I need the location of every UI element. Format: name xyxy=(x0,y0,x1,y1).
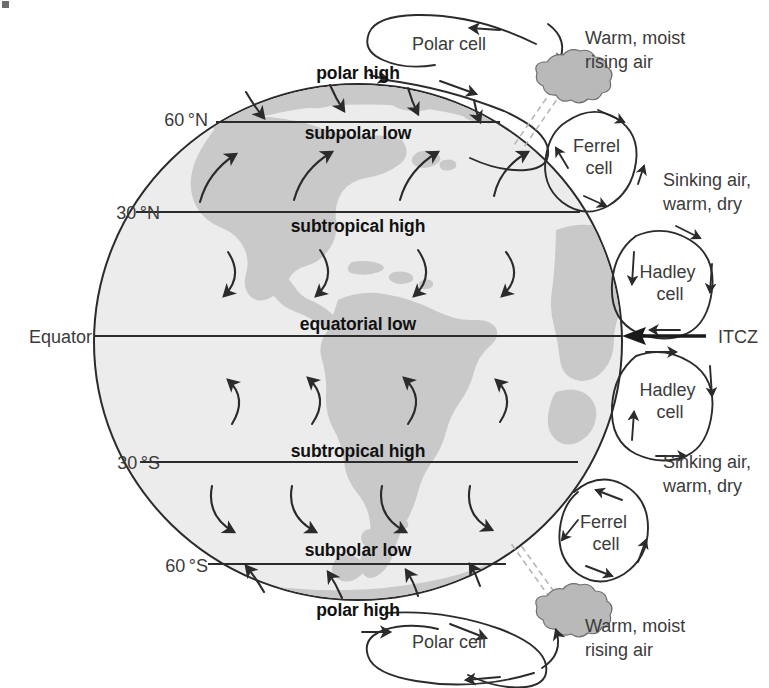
ferrel-cell-south-arrow-bottom xyxy=(586,566,612,576)
hadley-cell-north-arrow-left xyxy=(632,252,634,284)
ferrel-cell-south-arrow-right xyxy=(638,540,646,562)
polar-cell-south-label: Polar cell xyxy=(412,632,486,652)
lat-label-30n: 30 °N xyxy=(116,203,160,223)
hadley-cell-south-arrow-right xyxy=(710,366,712,396)
ferrel-cell-south-arrow-top xyxy=(596,490,622,500)
ferrel-cell-north-arrow-right xyxy=(638,166,644,184)
band-label-equatorial-low: equatorial low xyxy=(300,314,417,334)
sinking-air-north-label: Sinking air, warm, dry xyxy=(662,170,756,214)
dashed-ray xyxy=(510,542,550,598)
ferrel-cell-north-arrow-left xyxy=(556,148,568,168)
circulation-diagram: Polar cell Warm, moist rising air Ferrel… xyxy=(0,0,769,688)
hadley-cell-south-arrow-left xyxy=(632,412,634,440)
lat-label-60s: 60 °S xyxy=(165,556,208,576)
hadley-cell-north-loop xyxy=(612,226,713,339)
ferrel-cell-south-label: Ferrel cell xyxy=(580,512,632,554)
band-label-subtropical-high-north: subtropical high xyxy=(291,216,426,236)
sinking-air-south-label: Sinking air, warm, dry xyxy=(662,452,756,496)
hadley-cell-north-label: Hadley cell xyxy=(639,262,700,304)
band-label-subpolar-low-north: subpolar low xyxy=(305,123,412,143)
polar-cell-north-upper-head xyxy=(470,28,500,30)
lat-label-60n: 60 °N xyxy=(164,110,208,130)
rising-air-north-label: Warm, moist rising air xyxy=(585,28,690,72)
itcz-label: ITCZ xyxy=(718,327,758,347)
band-label-subpolar-low-south: subpolar low xyxy=(305,540,412,560)
lat-label-equator: Equator xyxy=(29,327,92,347)
ferrel-cell-south-arrow-left xyxy=(562,520,578,540)
hadley-cell-north-arrow-top xyxy=(676,226,700,238)
diagram-canvas: Polar cell Warm, moist rising air Ferrel… xyxy=(0,0,769,688)
dashed-ray xyxy=(522,92,562,150)
ferrel-cell-north-arrow-top xyxy=(598,110,624,122)
ferrel-cell-north-arrow-bottom xyxy=(584,196,606,206)
rising-air-south-label: Warm, moist rising air xyxy=(585,616,690,660)
band-label-polar-high-south: polar high xyxy=(316,600,400,620)
ferrel-cell-north-label: Ferrel cell xyxy=(573,136,625,178)
lat-label-30s: 30 °S xyxy=(117,453,160,473)
band-label-polar-high-north: polar high xyxy=(316,63,400,83)
band-label-subtropical-high-south: subtropical high xyxy=(291,441,426,461)
polar-cell-north-label: Polar cell xyxy=(412,34,486,54)
hadley-cell-south-label: Hadley cell xyxy=(639,380,700,422)
